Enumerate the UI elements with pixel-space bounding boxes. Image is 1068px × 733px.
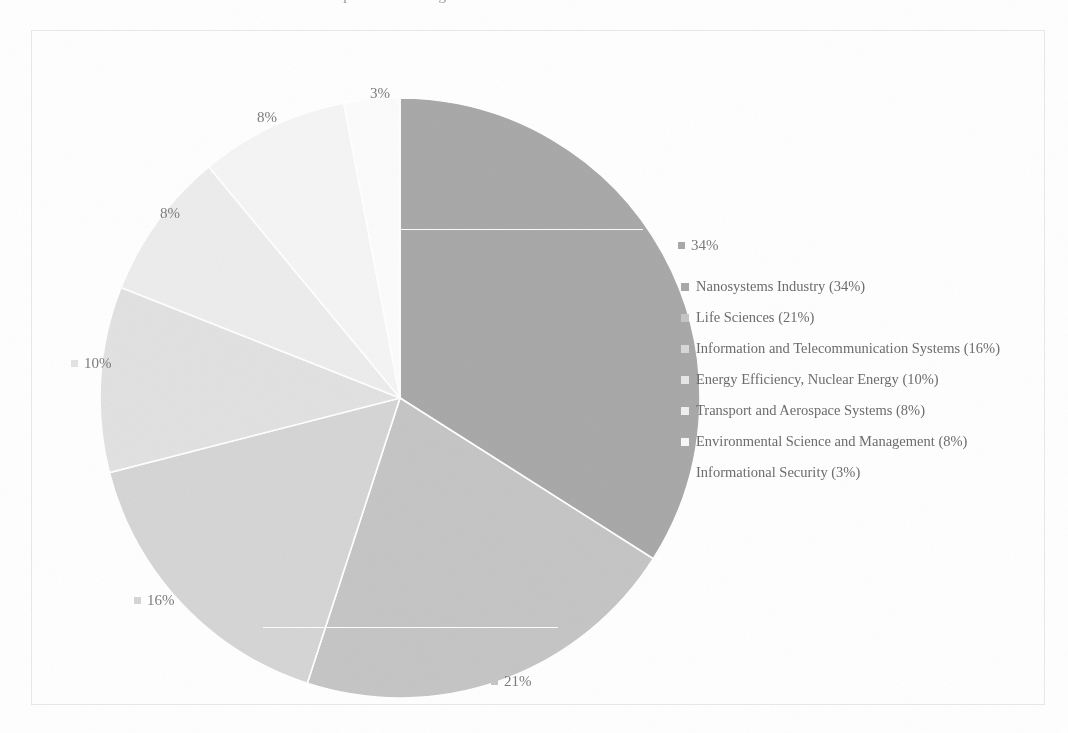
legend-swatch-icon (681, 407, 689, 415)
pie-label-swatch-icon (491, 678, 498, 685)
plot-area: 34%21%16%10%8%8%3% Nanosystems Industry … (32, 31, 1046, 706)
pie-chart (96, 94, 704, 702)
pie-label-text: 16% (147, 593, 175, 608)
chart-legend: Nanosystems Industry (34%)Life Sciences … (681, 271, 1041, 488)
legend-item-label: Informational Security (3%) (696, 465, 860, 480)
pie-value-label: 16% (134, 593, 175, 608)
legend-item-label: Transport and Aerospace Systems (8%) (696, 403, 925, 418)
pie-label-swatch-icon (134, 597, 141, 604)
pie-label-text: 3% (370, 86, 390, 101)
legend-item-label: Energy Efficiency, Nuclear Energy (10%) (696, 372, 939, 387)
legend-item[interactable]: Energy Efficiency, Nuclear Energy (10%) (681, 364, 1041, 395)
pie-value-label: 8% (147, 206, 180, 221)
chart-frame: 34%21%16%10%8%8%3% Nanosystems Industry … (31, 30, 1045, 705)
cut-off-caption-text: presented in Figure 3 – structure of the… (0, 0, 1068, 5)
legend-item[interactable]: Informational Security (3%) (681, 457, 1041, 488)
legend-swatch-icon (681, 376, 689, 384)
pie-label-swatch-icon (678, 242, 685, 249)
legend-item-label: Life Sciences (21%) (696, 310, 814, 325)
pie-value-label: 10% (71, 356, 112, 371)
pie-value-label: 3% (357, 86, 390, 101)
pie-label-text: 21% (504, 674, 532, 689)
legend-item[interactable]: Information and Telecommunication System… (681, 333, 1041, 364)
pie-label-text: 10% (84, 356, 112, 371)
legend-item-label: Environmental Science and Management (8%… (696, 434, 967, 449)
pie-value-label: 8% (244, 110, 277, 125)
legend-item[interactable]: Environmental Science and Management (8%… (681, 426, 1041, 457)
legend-swatch-icon (681, 314, 689, 322)
legend-swatch-icon (681, 283, 689, 291)
pie-label-text: 8% (160, 206, 180, 221)
legend-item-label: Information and Telecommunication System… (696, 341, 1000, 356)
legend-swatch-icon (681, 345, 689, 353)
legend-item[interactable]: Transport and Aerospace Systems (8%) (681, 395, 1041, 426)
legend-item[interactable]: Nanosystems Industry (34%) (681, 271, 1041, 302)
pie-value-label: 21% (491, 674, 532, 689)
pie-label-swatch-icon (71, 360, 78, 367)
pie-label-text: 8% (257, 110, 277, 125)
pie-slice-group (100, 98, 700, 698)
pie-value-label: 34% (678, 238, 719, 253)
legend-item[interactable]: Life Sciences (21%) (681, 302, 1041, 333)
legend-item-label: Nanosystems Industry (34%) (696, 279, 865, 294)
pie-label-text: 34% (691, 238, 719, 253)
legend-swatch-icon (681, 438, 689, 446)
